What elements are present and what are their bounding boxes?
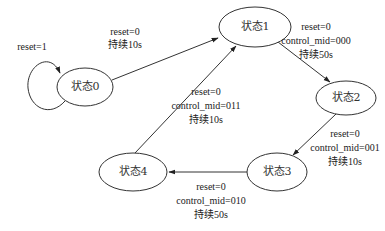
label-state4-to-state1: reset=0 control_mid=011 持续10s	[171, 86, 240, 125]
label-line: reset=0	[301, 21, 331, 32]
label-line: reset=0	[191, 86, 221, 97]
label-line: 持续50s	[194, 208, 228, 220]
label-state0-to-state1: reset=0 持续10s	[108, 26, 142, 50]
state-1-label: 状态1	[241, 19, 270, 33]
edge-state1-to-state2	[278, 42, 330, 82]
state-1: 状态1	[219, 7, 291, 47]
state-diagram: 状态0 状态1 状态2 状态3 状态4 reset=1 reset=0 持续10…	[0, 0, 385, 231]
state-0-label: 状态0	[71, 79, 100, 93]
label-line: control_mid=000	[281, 35, 351, 46]
label-line: control_mid=001	[310, 142, 380, 153]
label-line: 持续10s	[189, 113, 223, 125]
state-2: 状态2	[316, 81, 376, 115]
state-3-label: 状态3	[263, 164, 292, 178]
label-state2-to-state3: reset=0 control_mid=001 持续10s	[310, 128, 380, 167]
label-line: reset=0	[330, 128, 360, 139]
state-4-label: 状态4	[119, 164, 148, 178]
label-line: 持续50s	[299, 48, 333, 60]
label-line: control_mid=011	[171, 100, 240, 111]
state-2-label: 状态2	[332, 90, 361, 104]
label-line: 持续10s	[108, 38, 142, 50]
state-0: 状态0	[57, 68, 113, 106]
label-state1-to-state2: reset=0 control_mid=000 持续50s	[281, 21, 351, 60]
label-state0-self: reset=1	[17, 41, 47, 52]
label-line: 持续10s	[328, 155, 362, 167]
label-line: control_mid=010	[176, 195, 246, 206]
label-line: reset=0	[196, 181, 226, 192]
label-line: reset=0	[110, 26, 140, 37]
label-state3-to-state4: reset=0 control_mid=010 持续50s	[176, 181, 246, 220]
state-3: 状态3	[247, 153, 307, 191]
label-line: reset=1	[17, 41, 47, 52]
state-4: 状态4	[99, 153, 167, 191]
